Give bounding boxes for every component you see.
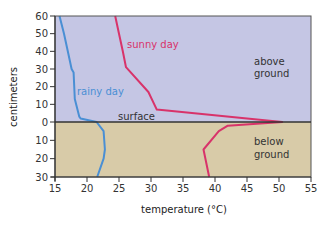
x-tick-label: 55 [305, 183, 318, 194]
x-tick-label: 35 [177, 183, 190, 194]
below-ground-label-line1: below [254, 136, 284, 147]
x-tick-label: 15 [49, 183, 62, 194]
y-tick-label: 30 [35, 64, 48, 75]
y-tick-label: 40 [35, 46, 48, 57]
surface-label: surface [118, 111, 155, 122]
x-tick-label: 25 [113, 183, 126, 194]
y-tick-label: 50 [35, 28, 48, 39]
y-tick-label: 0 [42, 117, 48, 128]
below-ground-label-line2: ground [254, 149, 289, 160]
x-axis-title: temperature (°C) [141, 204, 227, 215]
x-tick-label: 45 [241, 183, 254, 194]
above-ground-label-line2: ground [254, 68, 289, 79]
x-tick-label: 30 [145, 183, 158, 194]
y-tick-label: 10 [35, 99, 48, 110]
temperature-profile-chart: 6050403020100102030152025303540455055 ce… [0, 0, 331, 225]
x-tick-label: 20 [81, 183, 94, 194]
y-tick-label: 30 [35, 172, 48, 183]
y-tick-label: 10 [35, 135, 48, 146]
above-ground-label-line1: above [254, 56, 285, 67]
y-tick-label: 20 [35, 153, 48, 164]
rainy-day-label: rainy day [77, 86, 124, 97]
y-tick-label: 60 [35, 11, 48, 22]
sunny-day-label: sunny day [127, 39, 179, 50]
y-tick-label: 20 [35, 81, 48, 92]
x-tick-label: 40 [209, 183, 222, 194]
x-tick-label: 50 [273, 183, 286, 194]
y-axis-title: centimeters [8, 67, 19, 127]
